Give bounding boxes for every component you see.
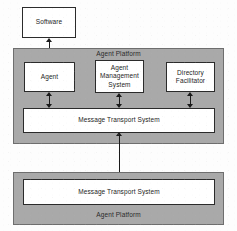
- message-transport-system-bottom-label: Message Transport System: [76, 188, 162, 197]
- agent-management-system-box-label: Agent Management System: [98, 64, 141, 90]
- agent-platform-top-label: Agent Platform: [13, 50, 224, 58]
- directory-facilitator-box[interactable]: Directory Facilitator: [166, 62, 215, 92]
- agent-management-system-box[interactable]: Agent Management System: [95, 60, 144, 93]
- software-box[interactable]: Software: [22, 7, 76, 38]
- connector-df-mts: [186, 92, 195, 108]
- agent-box[interactable]: Agent: [24, 62, 75, 92]
- agent-platform-bottom-label: Agent Platform: [13, 211, 224, 219]
- agent-box-label: Agent: [39, 73, 61, 82]
- diagram-canvas: Software Agent Platform Agent Agent Mana…: [0, 0, 237, 231]
- message-transport-system-top-label: Message Transport System: [76, 116, 162, 125]
- connector-agent-mts: [45, 92, 54, 108]
- connector-ams-mts: [115, 93, 124, 108]
- arrow-shaft: [119, 135, 120, 176]
- software-box-label: Software: [34, 18, 64, 27]
- directory-facilitator-box-label: Directory Facilitator: [174, 69, 207, 86]
- message-transport-system-box-bottom[interactable]: Message Transport System: [23, 179, 215, 205]
- message-transport-system-box-top[interactable]: Message Transport System: [23, 108, 215, 133]
